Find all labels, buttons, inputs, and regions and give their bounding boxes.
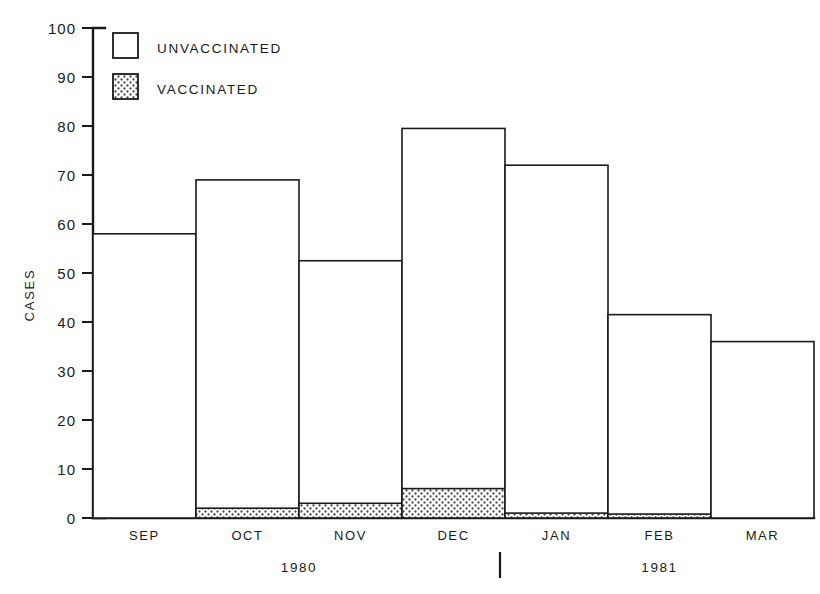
bar-group-feb	[608, 315, 711, 518]
bar-group-oct	[196, 180, 299, 518]
x-tick-label-oct: OCT	[231, 528, 263, 543]
x-tick-label-sep: SEP	[129, 528, 160, 543]
y-tick-label-30: 30	[57, 363, 76, 380]
x-tick-label-dec: DEC	[437, 528, 469, 543]
x-tick-label-feb: FEB	[644, 528, 674, 543]
y-tick-label-10: 10	[57, 461, 76, 478]
y-axis-title: CASES	[22, 268, 37, 321]
x-tick-label-nov: NOV	[334, 528, 367, 543]
legend-swatch-unvaccinated	[113, 33, 138, 58]
legend-label-vaccinated: VACCINATED	[157, 82, 259, 97]
y-tick-label-70: 70	[57, 167, 76, 184]
bar-group-dec	[402, 128, 505, 518]
bar-vaccinated-nov	[299, 503, 402, 518]
bar-group-jan	[505, 165, 608, 518]
bar-group-nov	[299, 261, 402, 518]
x-tick-label-jan: JAN	[542, 528, 571, 543]
legend-label-unvaccinated: UNVACCINATED	[157, 41, 282, 56]
x-group-label-1980: 1980	[281, 560, 317, 575]
bar-vaccinated-jan	[505, 513, 608, 518]
legend-swatch-vaccinated	[113, 74, 138, 99]
bar-unvaccinated-jan	[505, 165, 608, 518]
y-axis-ticks	[82, 28, 93, 518]
y-tick-label-60: 60	[57, 216, 76, 233]
y-tick-label-50: 50	[57, 265, 76, 282]
bar-vaccinated-oct	[196, 508, 299, 518]
y-tick-label-20: 20	[57, 412, 76, 429]
bar-unvaccinated-oct	[196, 180, 299, 518]
x-axis-tick-labels: SEPOCTNOVDECJANFEBMAR	[129, 528, 779, 543]
y-axis-tick-labels: 0102030405060708090100	[48, 20, 76, 527]
bar-unvaccinated-sep	[93, 234, 196, 518]
bar-chart-svg: 0102030405060708090100 CASES SEPOCTNOVDE…	[0, 0, 820, 594]
y-tick-label-90: 90	[57, 69, 76, 86]
bar-vaccinated-feb	[608, 514, 711, 518]
bar-vaccinated-dec	[402, 489, 505, 518]
bar-group-mar	[711, 342, 814, 518]
bar-series-group	[93, 128, 814, 518]
chart-figure: 0102030405060708090100 CASES SEPOCTNOVDE…	[0, 0, 820, 594]
bar-unvaccinated-nov	[299, 261, 402, 518]
y-tick-label-0: 0	[67, 510, 76, 527]
x-tick-label-mar: MAR	[746, 528, 780, 543]
y-tick-label-80: 80	[57, 118, 76, 135]
bar-unvaccinated-feb	[608, 315, 711, 518]
legend: UNVACCINATED VACCINATED	[113, 33, 282, 99]
x-group-label-1981: 1981	[641, 560, 677, 575]
y-tick-label-40: 40	[57, 314, 76, 331]
bar-unvaccinated-mar	[711, 342, 814, 518]
bar-unvaccinated-dec	[402, 128, 505, 518]
bar-group-sep	[93, 234, 196, 518]
y-tick-label-100: 100	[48, 20, 76, 37]
x-axis-group-labels: 19801981	[281, 560, 678, 575]
